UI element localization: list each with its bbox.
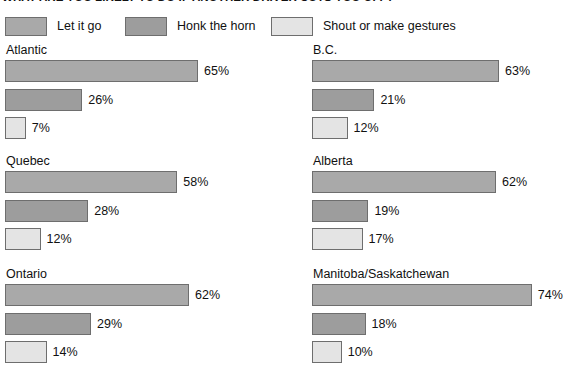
bar-track: 17% xyxy=(312,228,394,250)
bar-row: 62% xyxy=(312,171,568,200)
bar-shout-or-make-gestures xyxy=(312,228,363,250)
bar-row: 17% xyxy=(312,228,568,256)
bar-track: 62% xyxy=(312,171,527,193)
bar-track: 26% xyxy=(5,89,113,111)
bar-honk-the-horn xyxy=(5,200,88,222)
chart-legend: Let it go Honk the horn Shout or make ge… xyxy=(0,16,569,38)
bar-track: 65% xyxy=(5,60,229,82)
legend-item-honk-the-horn: Honk the horn xyxy=(125,16,256,37)
bar-value-label: 12% xyxy=(354,122,379,135)
panel-b-c: B.C.63%21%12% xyxy=(312,44,568,145)
bar-shout-or-make-gestures xyxy=(312,117,348,139)
panel-title: Manitoba/Saskatchewan xyxy=(313,268,568,281)
bar-track: 12% xyxy=(5,228,72,250)
bar-row: 28% xyxy=(5,200,261,228)
bar-row: 21% xyxy=(312,89,568,117)
panel-ontario: Ontario62%29%14% xyxy=(5,268,261,369)
bar-row: 58% xyxy=(5,171,261,200)
legend-item-let-it-go: Let it go xyxy=(5,16,101,37)
bar-value-label: 7% xyxy=(32,122,50,135)
bar-value-label: 28% xyxy=(94,205,119,218)
bar-value-label: 19% xyxy=(374,205,399,218)
bar-value-label: 74% xyxy=(538,289,563,302)
bar-value-label: 10% xyxy=(348,346,373,359)
bar-track: 10% xyxy=(312,341,373,363)
bar-value-label: 18% xyxy=(372,318,397,331)
legend-swatch-shout-or-make-gestures xyxy=(271,17,313,36)
bar-shout-or-make-gestures xyxy=(5,228,41,250)
bar-value-label: 65% xyxy=(204,65,229,78)
bar-row: 63% xyxy=(312,60,568,89)
bar-let-it-go xyxy=(312,60,499,82)
bar-row: 62% xyxy=(5,284,261,313)
bar-value-label: 62% xyxy=(195,289,220,302)
bar-value-label: 21% xyxy=(380,94,405,107)
bar-track: 12% xyxy=(312,117,379,139)
bar-honk-the-horn xyxy=(312,313,366,335)
panel-alberta: Alberta62%19%17% xyxy=(312,155,568,256)
bar-track: 62% xyxy=(5,284,220,306)
bar-honk-the-horn xyxy=(312,89,374,111)
bar-value-label: 29% xyxy=(97,318,122,331)
bar-row: 26% xyxy=(5,89,261,117)
chart-title: WHAT ARE YOU LIKELY TO DO IF ANOTHER DRI… xyxy=(2,0,394,3)
bar-track: 29% xyxy=(5,313,122,335)
bar-value-label: 62% xyxy=(502,176,527,189)
bar-track: 58% xyxy=(5,171,208,193)
bar-honk-the-horn xyxy=(5,89,82,111)
bar-track: 63% xyxy=(312,60,530,82)
bar-value-label: 63% xyxy=(505,65,530,78)
panel-atlantic: Atlantic65%26%7% xyxy=(5,44,261,145)
legend-label-honk-the-horn: Honk the horn xyxy=(177,20,256,33)
bar-value-label: 26% xyxy=(88,94,113,107)
bar-shout-or-make-gestures xyxy=(5,117,26,139)
bar-track: 14% xyxy=(5,341,78,363)
bar-let-it-go xyxy=(5,284,189,306)
bar-honk-the-horn xyxy=(5,313,91,335)
bar-let-it-go xyxy=(5,60,198,82)
panel-title: Alberta xyxy=(313,155,568,168)
bar-track: 19% xyxy=(312,200,399,222)
bar-row: 7% xyxy=(5,117,261,145)
bar-value-label: 14% xyxy=(53,346,78,359)
legend-swatch-let-it-go xyxy=(5,17,47,36)
bar-row: 29% xyxy=(5,313,261,341)
bar-track: 21% xyxy=(312,89,405,111)
bar-track: 7% xyxy=(5,117,50,139)
bar-row: 65% xyxy=(5,60,261,89)
panel-manitoba-saskatchewan: Manitoba/Saskatchewan74%18%10% xyxy=(312,268,568,369)
bar-value-label: 17% xyxy=(369,233,394,246)
legend-swatch-honk-the-horn xyxy=(125,17,167,36)
bar-let-it-go xyxy=(5,171,177,193)
bar-row: 10% xyxy=(312,341,568,369)
panel-title: Ontario xyxy=(6,268,261,281)
legend-item-shout-or-make-gestures: Shout or make gestures xyxy=(271,16,456,37)
panel-title: Quebec xyxy=(6,155,261,168)
legend-label-shout-or-make-gestures: Shout or make gestures xyxy=(323,20,456,33)
legend-label-let-it-go: Let it go xyxy=(57,20,101,33)
bar-value-label: 58% xyxy=(183,176,208,189)
bar-value-label: 12% xyxy=(47,233,72,246)
bar-shout-or-make-gestures xyxy=(312,341,342,363)
bar-honk-the-horn xyxy=(312,200,368,222)
bar-let-it-go xyxy=(312,284,532,306)
bar-row: 19% xyxy=(312,200,568,228)
panel-title: Atlantic xyxy=(6,44,261,57)
bar-shout-or-make-gestures xyxy=(5,341,47,363)
bar-row: 14% xyxy=(5,341,261,369)
bar-row: 18% xyxy=(312,313,568,341)
panel-title: B.C. xyxy=(313,44,568,57)
bar-track: 74% xyxy=(312,284,563,306)
bar-row: 12% xyxy=(5,228,261,256)
bar-track: 18% xyxy=(312,313,397,335)
panel-quebec: Quebec58%28%12% xyxy=(5,155,261,256)
bar-track: 28% xyxy=(5,200,119,222)
bar-let-it-go xyxy=(312,171,496,193)
bar-row: 12% xyxy=(312,117,568,145)
bar-row: 74% xyxy=(312,284,568,313)
